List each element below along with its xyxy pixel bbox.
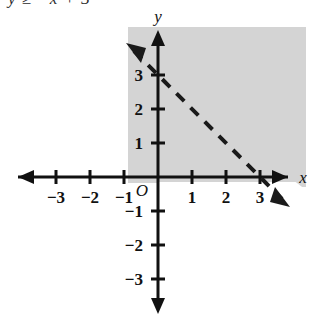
x-tick-label-1: 1 <box>188 188 197 207</box>
x-tick-label-neg2: −2 <box>81 188 99 207</box>
x-tick-label-2: 2 <box>222 188 231 207</box>
coordinate-graph: −3 −2 −1 1 2 3 3 2 1 −1 −2 −3 O x y <box>0 0 317 318</box>
y-tick-label-neg3: −3 <box>125 270 143 289</box>
y-tick-label-3: 3 <box>135 66 144 85</box>
y-tick-label-neg2: −2 <box>125 236 143 255</box>
dashed-line-arrow-downright <box>270 187 290 207</box>
y-tick-label-neg1: −1 <box>125 202 143 221</box>
y-tick-label-2: 2 <box>135 100 144 119</box>
y-axis-label: y <box>152 7 162 26</box>
x-tick-label-3: 3 <box>256 188 265 207</box>
x-tick-label-neg3: −3 <box>47 188 65 207</box>
origin-label: O <box>136 181 148 200</box>
x-axis-label: x <box>298 168 307 187</box>
y-tick-label-1: 1 <box>135 134 144 153</box>
figure-container: y ≥ −x + 3 <box>0 0 317 318</box>
